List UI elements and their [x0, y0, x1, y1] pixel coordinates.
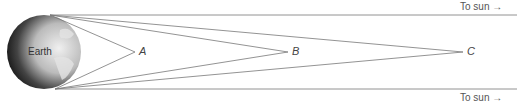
to-sun-top-label: To sun → — [460, 1, 502, 12]
earth-label: Earth — [28, 46, 52, 57]
point-b-label: B — [292, 45, 299, 57]
to-sun-bottom-label: To sun → — [460, 92, 502, 103]
point-c-label: C — [467, 45, 475, 57]
point-a-label: A — [139, 45, 146, 57]
parallax-diagram — [0, 0, 526, 105]
